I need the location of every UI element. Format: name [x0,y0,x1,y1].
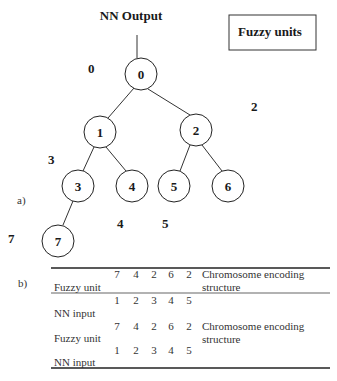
nn-output-title: NN Output [100,8,163,23]
edge-1-3 [83,147,94,171]
node-1: 1 [84,116,116,148]
edge-0-1 [108,88,134,118]
svg-text:6: 6 [168,268,174,280]
svg-text:7: 7 [55,234,62,249]
node-6: 6 [212,170,244,202]
edge-2-6 [202,145,222,171]
panel-a: NN Output Fuzzy units 0 1 2 3 [8,8,316,257]
svg-text:3: 3 [75,179,82,194]
chromosome-note: Chromosome encoding [202,268,305,280]
row-label: NN input [54,356,95,368]
row-label: Fuzzy unit [54,281,101,293]
svg-text:2: 2 [186,320,192,332]
svg-text:3: 3 [151,344,157,356]
svg-text:1: 1 [114,344,120,356]
table-row: 1 2 3 4 5 NN input [54,294,192,319]
node-5: 5 [158,170,190,202]
edge-0-2 [148,89,190,115]
outside-label-4: 4 [117,216,124,231]
svg-text:7: 7 [114,268,120,280]
chromosome-note: Chromosome encoding [202,320,305,332]
panel-a-label: a) [17,194,26,207]
table-row: 1 2 3 4 5 NN input [54,344,192,368]
svg-text:2: 2 [151,320,157,332]
chromosome-note: structure [202,281,241,293]
outside-label-2: 2 [251,99,258,114]
outside-label-3: 3 [48,152,55,167]
svg-text:6: 6 [225,179,232,194]
svg-text:7: 7 [114,320,120,332]
node-7: 7 [42,225,74,257]
svg-text:3: 3 [151,294,157,306]
panel-b-table: b) 7 4 2 6 2 Chromosome encoding structu… [18,268,330,368]
fuzzy-units-legend-label: Fuzzy units [238,24,302,39]
edge-2-5 [180,145,190,171]
svg-text:4: 4 [133,268,139,280]
svg-text:4: 4 [133,320,139,332]
node-3: 3 [62,170,94,202]
table-row: 7 4 2 6 2 Chromosome encoding structure … [54,268,305,293]
svg-text:2: 2 [151,268,157,280]
node-2: 2 [180,114,212,146]
chromosome-note: structure [202,333,241,345]
svg-text:5: 5 [186,344,192,356]
svg-text:6: 6 [168,320,174,332]
edge-3-7 [63,201,73,225]
diagram-canvas: NN Output Fuzzy units 0 1 2 3 [0,0,337,381]
svg-text:5: 5 [171,179,178,194]
svg-text:0: 0 [138,67,145,82]
edge-1-4 [106,147,126,171]
svg-text:4: 4 [168,294,174,306]
node-4: 4 [116,170,148,202]
svg-text:1: 1 [97,125,104,140]
svg-text:2: 2 [186,268,192,280]
svg-text:2: 2 [193,123,200,138]
svg-text:2: 2 [133,344,139,356]
outside-label-0: 0 [88,61,95,76]
outside-label-7: 7 [8,231,15,246]
svg-text:2: 2 [133,294,139,306]
node-0: 0 [125,58,157,90]
outside-label-5: 5 [162,216,169,231]
table-row: 7 4 2 6 2 Chromosome encoding structure … [54,320,305,345]
row-label: Fuzzy unit [54,332,101,344]
svg-text:1: 1 [114,294,120,306]
svg-text:4: 4 [129,179,136,194]
svg-text:4: 4 [168,344,174,356]
panel-b-label: b) [18,277,28,290]
svg-text:5: 5 [186,294,192,306]
row-label: NN input [54,307,95,319]
